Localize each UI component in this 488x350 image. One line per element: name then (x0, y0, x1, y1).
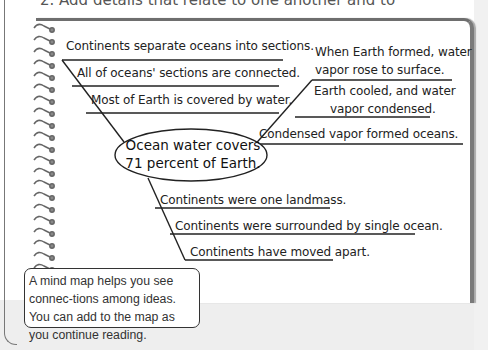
detail-lower-1: Continents were one landmass. (160, 193, 346, 207)
detail-upper-left-2: All of oceans' sections are connected. (77, 66, 300, 80)
central-idea: Ocean water covers 71 percent of Earth. (118, 136, 268, 172)
detail-upper-left-3: Most of Earth is covered by water. (91, 93, 292, 107)
detail-upper-right-1a: When Earth formed, water (315, 45, 472, 59)
detail-upper-right-2a: Earth cooled, and water (314, 84, 456, 98)
detail-upper-right-2b: vapor condensed. (330, 102, 436, 116)
central-idea-line2: 71 percent of Earth. (118, 154, 268, 172)
detail-upper-right-1b: vapor rose to surface. (315, 63, 444, 77)
detail-lower-2: Continents were surrounded by single oce… (175, 219, 443, 233)
detail-lower-3: Continents have moved apart. (190, 245, 370, 259)
detail-upper-right-3: Condensed vapor formed oceans. (259, 127, 458, 141)
tip-callout: A mind map helps you see connec-tions am… (24, 268, 200, 328)
detail-upper-left-1: Continents separate oceans into sections… (66, 39, 314, 53)
central-idea-line1: Ocean water covers (118, 136, 268, 154)
